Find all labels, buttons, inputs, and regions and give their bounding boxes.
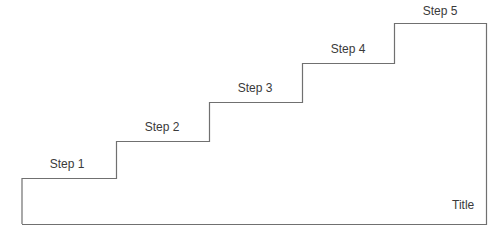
step-5-label: Step 5 bbox=[423, 4, 458, 18]
step-2-label: Step 2 bbox=[145, 120, 180, 134]
staircase-outline bbox=[0, 0, 502, 235]
step-1-label: Step 1 bbox=[50, 157, 85, 171]
diagram-title: Title bbox=[452, 198, 474, 212]
staircase-diagram: Step 1 Step 2 Step 3 Step 4 Step 5 Title bbox=[0, 0, 502, 235]
staircase-line bbox=[22, 24, 487, 225]
step-4-label: Step 4 bbox=[331, 42, 366, 56]
step-3-label: Step 3 bbox=[238, 81, 273, 95]
